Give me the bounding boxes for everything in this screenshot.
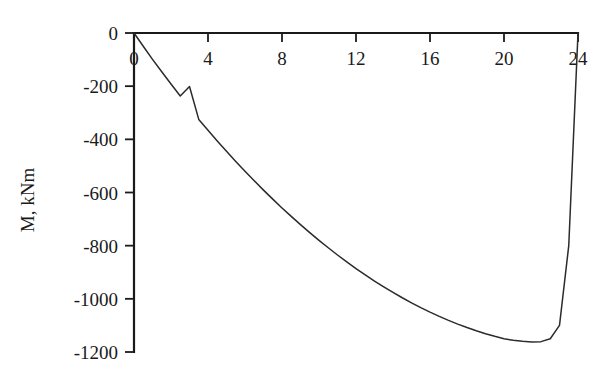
y-axis-title: M, kNm xyxy=(17,168,38,233)
y-axis-tick-label: -800 xyxy=(83,236,118,257)
x-axis-tick-label: 8 xyxy=(277,48,287,69)
x-axis-tick-label: 24 xyxy=(569,48,589,69)
y-axis-tick-label: -200 xyxy=(83,76,118,97)
y-axis-tick-label: -600 xyxy=(83,183,118,204)
x-axis-tick-label: 12 xyxy=(347,48,366,69)
chart-figure: 04812162024 0-200-400-600-800-1000-1200 … xyxy=(0,0,610,382)
bending-moment-chart: 04812162024 0-200-400-600-800-1000-1200 … xyxy=(0,0,610,382)
y-axis-tick-label: -1000 xyxy=(74,289,118,310)
x-axis-tick-label: 16 xyxy=(421,48,440,69)
y-axis-tick-label: 0 xyxy=(109,23,119,44)
y-axis-tick-label: -400 xyxy=(83,129,118,150)
x-axis-tick-label: 4 xyxy=(203,48,213,69)
x-axis-tick-label: 20 xyxy=(495,48,514,69)
y-axis-tick-label: -1200 xyxy=(74,342,118,363)
